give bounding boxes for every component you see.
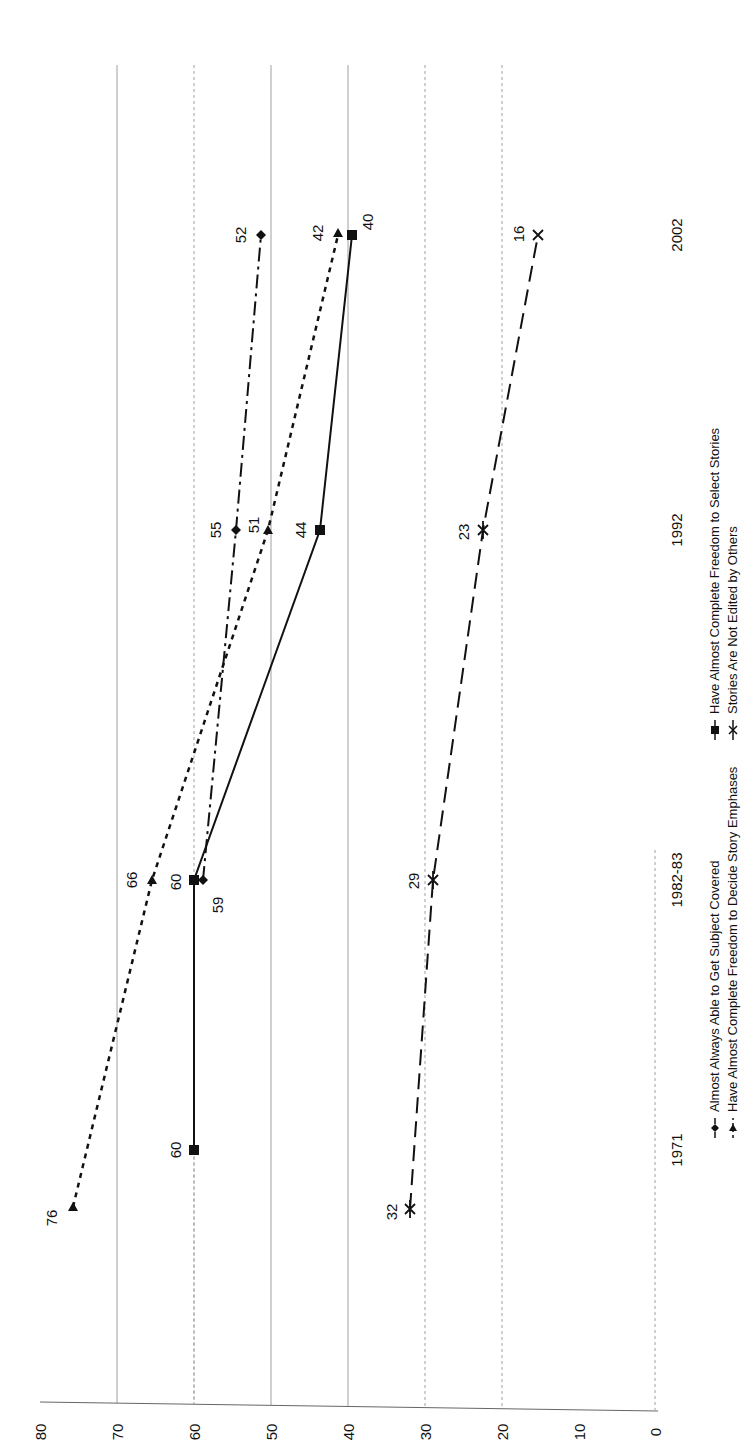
triangle-marker — [68, 1202, 78, 1211]
legend-label: Have Almost Complete Freedom to Decide S… — [725, 766, 740, 1112]
triangle-marker — [263, 525, 273, 534]
square-icon — [711, 726, 719, 734]
data-label: 44 — [292, 522, 309, 539]
value-axis — [40, 1402, 658, 1411]
data-label: 55 — [207, 522, 224, 539]
data-label: 23 — [455, 524, 472, 541]
category-2002: 2002 — [668, 218, 685, 251]
data-label: 76 — [43, 1210, 60, 1227]
tick-70: 70 — [109, 1424, 126, 1441]
data-label: 51 — [245, 517, 262, 534]
data-labels: 59 55 52 60 60 44 40 76 66 51 42 32 29 2… — [43, 214, 527, 1227]
x-marker — [533, 230, 543, 240]
category-1971: 1971 — [668, 1133, 685, 1166]
chart: 80 70 60 50 40 30 20 10 0 1971 1982-83 1… — [0, 0, 748, 1445]
series-select-stories — [189, 230, 357, 1403]
tick-40: 40 — [340, 1424, 357, 1441]
tick-20: 20 — [494, 1424, 511, 1441]
data-label: 40 — [359, 214, 376, 231]
value-tick-labels: 80 70 60 50 40 30 20 10 0 — [32, 1424, 664, 1441]
data-label: 60 — [167, 1142, 184, 1159]
square-marker — [347, 230, 357, 240]
legend-label: Stories Are Not Edited by Others — [725, 526, 740, 714]
series-story-emphases — [68, 228, 343, 1211]
tick-30: 30 — [417, 1424, 434, 1441]
legend-item-not-edited: Stories Are Not Edited by Others — [725, 526, 740, 740]
category-labels: 1971 1982-83 1992 2002 — [668, 218, 685, 1166]
series-subject-covered — [198, 230, 266, 885]
diamond-icon — [711, 1124, 719, 1132]
category-1982-83: 1982-83 — [668, 852, 685, 907]
diamond-marker — [256, 230, 266, 240]
legend-item-select-stories: Have Almost Complete Freedom to Select S… — [707, 427, 722, 740]
x-marker — [428, 871, 438, 889]
legend: Almost Always Able to Get Subject Covere… — [707, 427, 740, 1138]
diamond-marker — [198, 875, 208, 885]
series-not-edited — [405, 230, 543, 1218]
tick-80: 80 — [32, 1424, 49, 1441]
x-marker — [478, 521, 488, 539]
triangle-icon — [729, 1124, 737, 1131]
tick-60: 60 — [186, 1424, 203, 1441]
data-label: 52 — [232, 227, 249, 244]
triangle-marker — [147, 875, 157, 884]
data-label: 29 — [405, 873, 422, 890]
category-1992: 1992 — [668, 513, 685, 546]
tick-0: 0 — [647, 1428, 664, 1436]
data-label: 59 — [209, 897, 226, 914]
x-marker — [405, 1200, 415, 1218]
data-label: 42 — [309, 225, 326, 242]
triangle-marker — [333, 228, 343, 237]
legend-item-story-emphases: Have Almost Complete Freedom to Decide S… — [725, 766, 740, 1138]
data-label: 66 — [123, 872, 140, 889]
square-marker — [189, 875, 199, 885]
tick-10: 10 — [571, 1424, 588, 1441]
data-label: 60 — [167, 874, 184, 891]
legend-item-subject-covered: Almost Always Able to Get Subject Covere… — [707, 861, 722, 1138]
legend-label: Almost Always Able to Get Subject Covere… — [707, 861, 722, 1112]
tick-50: 50 — [263, 1424, 280, 1441]
legend-label: Have Almost Complete Freedom to Select S… — [707, 427, 722, 714]
data-label: 16 — [510, 226, 527, 243]
data-label: 32 — [383, 1204, 400, 1221]
square-marker — [189, 1145, 199, 1155]
square-marker — [315, 525, 325, 535]
diamond-marker — [231, 525, 241, 535]
